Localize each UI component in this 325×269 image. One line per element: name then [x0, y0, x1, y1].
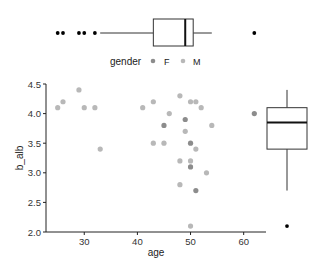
scatter-with-marginal-boxplots: gender F M 2.02.53.03.54.04.5 30405060 a…	[0, 0, 325, 269]
data-point-f	[252, 111, 257, 116]
data-point-m	[161, 141, 166, 146]
box	[153, 19, 193, 46]
data-point-m	[92, 105, 97, 110]
box	[267, 108, 307, 149]
b-alb-marginal-boxplot	[267, 90, 307, 228]
legend: gender F M	[110, 56, 201, 67]
x-axis-label: age	[148, 247, 165, 258]
x-tick-label: 60	[238, 236, 249, 247]
scatter-points	[55, 87, 257, 228]
age-marginal-boxplot	[56, 19, 256, 46]
x-tick-label: 40	[132, 236, 143, 247]
y-tick-label: 3.0	[28, 167, 41, 178]
legend-swatch-m	[181, 59, 186, 64]
y-axis-label: b_alb	[14, 145, 25, 170]
data-point-f	[193, 188, 198, 193]
outlier-point	[77, 31, 81, 35]
y-tick-label: 3.5	[28, 138, 41, 149]
legend-swatch-f	[151, 59, 156, 64]
y-tick-label: 4.5	[28, 79, 41, 90]
data-point-m	[177, 93, 182, 98]
data-point-m	[60, 99, 65, 104]
data-point-m	[177, 158, 182, 163]
data-point-m	[167, 111, 172, 116]
y-tick-label: 2.0	[28, 227, 41, 238]
data-point-m	[193, 99, 198, 104]
data-point-m	[98, 147, 103, 152]
axes: 2.02.53.03.54.04.5 30405060 age b_alb	[14, 79, 266, 259]
outlier-point	[82, 31, 86, 35]
data-point-m	[199, 105, 204, 110]
x-tick-label: 30	[79, 236, 90, 247]
legend-label-f: F	[164, 57, 170, 67]
data-point-m	[183, 129, 188, 134]
data-point-m	[151, 99, 156, 104]
data-point-m	[204, 170, 209, 175]
data-point-m	[188, 99, 193, 104]
data-point-m	[151, 141, 156, 146]
data-point-m	[76, 87, 81, 92]
data-point-f	[188, 141, 193, 146]
data-point-f	[183, 117, 188, 122]
outlier-point	[56, 31, 60, 35]
data-point-m	[209, 123, 214, 128]
x-tick-label: 50	[185, 236, 196, 247]
data-point-f	[188, 164, 193, 169]
y-ticks: 2.02.53.03.54.04.5	[28, 79, 46, 238]
legend-label-m: M	[193, 57, 201, 67]
y-tick-label: 4.0	[28, 108, 41, 119]
data-point-m	[188, 158, 193, 163]
data-point-m	[177, 182, 182, 187]
x-ticks: 30405060	[79, 232, 249, 247]
outlier-point	[252, 31, 256, 35]
data-point-f	[161, 123, 166, 128]
data-point-m	[82, 105, 87, 110]
legend-title: gender	[110, 56, 142, 67]
y-tick-label: 2.5	[28, 197, 41, 208]
outlier-point	[61, 31, 65, 35]
data-point-m	[193, 147, 198, 152]
data-point-m	[55, 105, 60, 110]
outlier-point	[93, 31, 97, 35]
data-point-m	[140, 105, 145, 110]
data-point-m	[188, 223, 193, 228]
outlier-point	[285, 224, 289, 228]
